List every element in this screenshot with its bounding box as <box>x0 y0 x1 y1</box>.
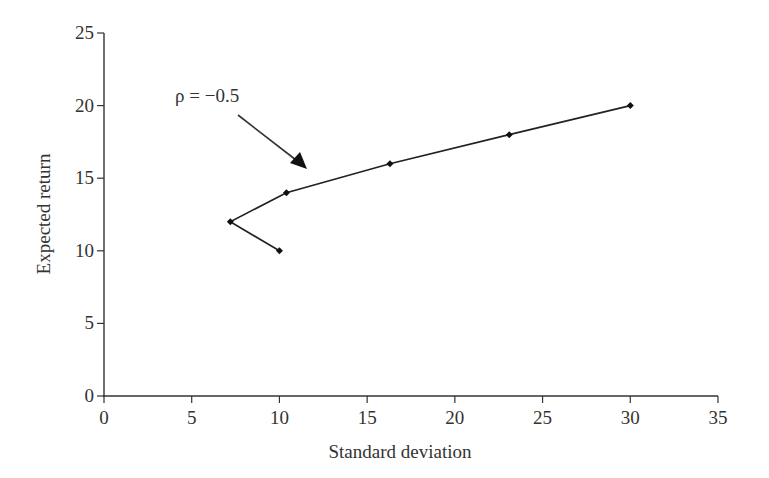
x-tick-label: 25 <box>533 407 552 428</box>
x-tick-label: 5 <box>187 407 197 428</box>
data-point-diamond-icon <box>283 189 290 196</box>
x-tick-label: 20 <box>445 407 464 428</box>
chart: 05101520253035 0510152025 Standard devia… <box>0 0 769 478</box>
y-axis-title: Expected return <box>33 153 54 274</box>
y-tick-label: 20 <box>75 95 94 116</box>
x-tick-label: 10 <box>270 407 289 428</box>
x-tick-label: 0 <box>99 407 109 428</box>
data-point-diamond-icon <box>506 131 513 138</box>
data-point-diamond-icon <box>276 247 283 254</box>
x-axis-ticks: 05101520253035 <box>99 396 727 428</box>
correlation-annotation: ρ = −0.5 <box>175 85 307 169</box>
data-point-diamond-icon <box>227 218 234 225</box>
y-tick-label: 5 <box>85 312 95 333</box>
series-line <box>230 106 630 251</box>
annotation-arrow-shaft <box>238 115 296 160</box>
x-axis-title: Standard deviation <box>329 441 472 462</box>
annotation-arrow-head-icon <box>290 152 307 169</box>
y-tick-label: 25 <box>75 22 94 43</box>
y-axis-ticks: 0510152025 <box>75 22 104 406</box>
y-tick-label: 15 <box>75 167 94 188</box>
data-series <box>227 102 634 254</box>
data-point-diamond-icon <box>386 160 393 167</box>
annotation-label: ρ = −0.5 <box>175 85 239 106</box>
x-tick-label: 35 <box>709 407 728 428</box>
y-tick-label: 10 <box>75 240 94 261</box>
x-tick-label: 15 <box>358 407 377 428</box>
y-tick-label: 0 <box>85 385 95 406</box>
x-tick-label: 30 <box>621 407 640 428</box>
data-point-diamond-icon <box>627 102 634 109</box>
